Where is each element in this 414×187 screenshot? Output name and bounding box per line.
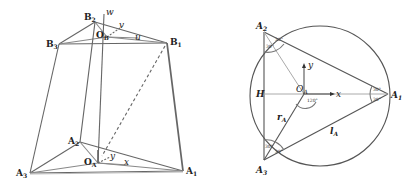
angle-label-a1-top: 30° — [373, 87, 381, 92]
angle-label-a1-bottom: 30° — [373, 97, 381, 102]
angle-label-a3-left: 30° — [265, 144, 273, 149]
angle-label-a2-left: 30° — [266, 44, 274, 49]
y-arrow-icon — [302, 63, 306, 68]
label-la: lA — [330, 126, 338, 137]
figure-canvas: B2 w v OB u B3 B1 A2 y OA x A3 A1 — [0, 0, 414, 187]
right-labels: A2 A1 A3 H OA y x rA lA 30° 30° 30° 30° … — [255, 21, 402, 176]
angle-label-a2-right: 30° — [275, 37, 283, 42]
label-y: y — [307, 60, 314, 70]
radius-oa-a3 — [264, 94, 304, 160]
label-a3: A3 — [255, 165, 267, 176]
right-diagram-base-geometry: A2 A1 A3 H OA y x rA lA 30° 30° 30° 30° … — [0, 0, 414, 187]
label-ra: rA — [277, 112, 287, 123]
angle-label-center: 120° — [307, 98, 318, 103]
label-x: x — [336, 89, 341, 99]
angle-label-a3-right: 30° — [275, 149, 283, 154]
label-h: H — [255, 89, 265, 99]
label-a2: A2 — [255, 21, 267, 32]
x-arrow-icon — [330, 92, 335, 96]
label-a1: A1 — [390, 90, 402, 101]
label-oa: OA — [296, 84, 308, 95]
